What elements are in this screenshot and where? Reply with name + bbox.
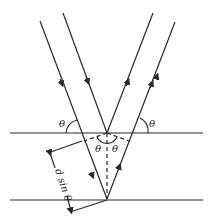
arrow-icon [91, 172, 93, 176]
arrow-icon [156, 76, 157, 79]
theta-label-upper-right: θ [149, 118, 155, 129]
perp-right-dashed [107, 133, 129, 141]
theta-label-upper-left: θ [59, 118, 65, 129]
dimension-bottom-extension [70, 200, 107, 212]
reflected-ray-outer [107, 22, 175, 199]
incident-ray-inner [63, 13, 107, 133]
incident-ray-outer [40, 21, 107, 199]
diagram-svg: θ θ θ θ d sin θ [0, 0, 213, 221]
arrow-icon [118, 166, 120, 170]
dimension-top-extension [48, 141, 82, 153]
dimension-line [50, 153, 55, 168]
bragg-diagram: θ θ θ θ d sin θ [0, 0, 213, 221]
theta-label-inner-right: θ [112, 143, 118, 154]
angle-arc-upper-left [66, 120, 77, 133]
path-difference-label: d sin θ [53, 167, 74, 202]
perp-left-dashed [84, 133, 107, 141]
angle-arc-upper-right [140, 118, 148, 133]
theta-label-inner-left: θ [95, 143, 101, 154]
reflected-ray-inner [107, 13, 153, 133]
